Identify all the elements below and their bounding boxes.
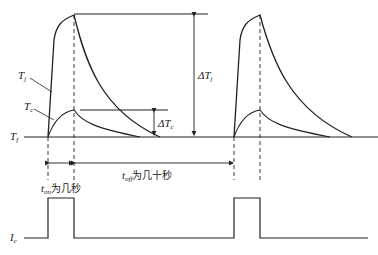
tj-curve-1 — [48, 15, 160, 137]
ic-label: Ic — [10, 232, 17, 245]
tc-curve-1 — [48, 110, 140, 137]
tf-label: Tf — [10, 131, 18, 144]
delta-tj-label: ΔTj — [198, 70, 213, 83]
t-on-label: ton为几秒 — [41, 183, 81, 196]
tc-label: Tc — [24, 101, 33, 114]
t-off-label: toff为几十秒 — [122, 170, 172, 183]
diagram-canvas — [0, 0, 378, 255]
tj-curve-2 — [234, 15, 352, 137]
ic-pulse-train — [24, 198, 368, 238]
thermal-cycle-diagram: Tj Tc Tf Ic ΔTj ΔTc ton为几秒 toff为几十秒 — [0, 0, 378, 255]
tj-label: Tj — [18, 70, 26, 83]
delta-tc-label: ΔTc — [158, 118, 174, 131]
